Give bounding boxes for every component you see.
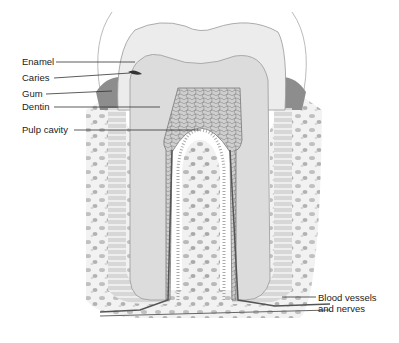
label-pulp-cavity: Pulp cavity bbox=[22, 124, 68, 135]
label-and-nerves: and nerves bbox=[318, 303, 365, 314]
label-caries: Caries bbox=[22, 72, 49, 83]
label-gum: Gum bbox=[22, 88, 43, 99]
label-enamel: Enamel bbox=[22, 56, 54, 67]
label-dentin: Dentin bbox=[22, 101, 49, 112]
label-blood-vessels: Blood vessels bbox=[318, 292, 377, 303]
